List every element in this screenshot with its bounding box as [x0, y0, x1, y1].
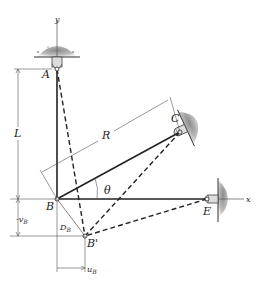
dimension-ub [57, 199, 85, 272]
label-r: R [101, 129, 110, 142]
label-ub: uB [87, 265, 97, 275]
member-ab-prime [57, 69, 85, 236]
label-l: L [13, 127, 21, 140]
pin-e [205, 197, 209, 201]
theta-arc [95, 178, 98, 199]
member-bc [57, 132, 180, 199]
label-vb: -vB [16, 215, 28, 225]
x-axis-label: x [246, 195, 251, 204]
member-cb-prime [85, 132, 180, 236]
label-db: DB [59, 223, 71, 233]
label-e: E [202, 205, 211, 218]
truss-diagram: y x L [0, 0, 267, 286]
label-theta: θ [104, 184, 111, 197]
pin-a [55, 67, 59, 71]
member-eb-prime [85, 199, 207, 236]
label-a: A [41, 68, 50, 81]
label-b-prime: B' [86, 237, 98, 250]
y-axis-label: y [54, 15, 60, 24]
label-b: B [45, 200, 54, 213]
label-c: C [171, 112, 180, 125]
